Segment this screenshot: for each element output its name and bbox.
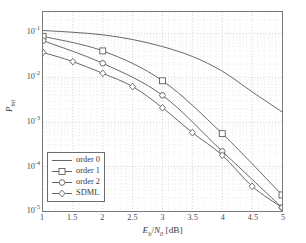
data-point-marker: [100, 70, 106, 77]
data-point-marker: [160, 78, 166, 84]
data-point-marker: [100, 61, 106, 66]
data-point-marker: [160, 93, 166, 98]
legend-item-sdml[interactable]: SDML: [51, 188, 100, 199]
x-tick-label: 5: [281, 214, 285, 222]
x-axis-label: Eb/N0 [dB]: [42, 225, 283, 237]
legend-none-icon: [51, 155, 73, 166]
x-tick-label: 3: [160, 214, 164, 222]
legend-item-label: order 2: [73, 178, 100, 186]
x-tick-label: 2: [100, 214, 104, 222]
legend-square-icon: [51, 166, 73, 177]
y-tick-label: 10-5: [2, 207, 40, 215]
data-point-marker: [219, 131, 225, 137]
data-point-marker: [160, 104, 166, 111]
data-point-marker: [279, 192, 282, 198]
legend-item-label: SDML: [73, 189, 99, 197]
x-tick-label: 1: [40, 214, 44, 222]
series-order-0: [43, 31, 282, 112]
y-tick-label: 10-1: [2, 28, 40, 36]
legend-item-label: order 1: [73, 167, 100, 175]
data-point-marker: [70, 58, 76, 65]
x-tick-label: 4.5: [248, 214, 258, 222]
legend-item-order-1[interactable]: order 1: [51, 166, 100, 177]
figure-canvas: 10-110-210-310-410-5 11.522.533.544.55 P…: [0, 0, 306, 243]
x-tick-label: 4: [221, 214, 225, 222]
x-tick-label: 1.5: [67, 214, 77, 222]
x-axis-label-unit: [dB]: [163, 225, 182, 235]
data-point-marker: [130, 83, 136, 90]
x-tick-label: 3.5: [188, 214, 198, 222]
y-axis-label-symbol: P: [4, 106, 14, 112]
x-tick-label: 2.5: [127, 214, 137, 222]
legend-item-order-2[interactable]: order 2: [51, 177, 100, 188]
legend[interactable]: order 0order 1order 2SDML: [47, 152, 105, 202]
data-point-marker: [189, 129, 195, 136]
y-axis-label: Pbit: [4, 83, 16, 129]
y-tick-label: 10-4: [2, 163, 40, 171]
legend-diamond-icon: [51, 188, 73, 199]
y-axis-label-subscript: bit: [9, 100, 16, 107]
y-tick-label: 10-2: [2, 73, 40, 81]
data-point-marker: [100, 48, 106, 54]
data-point-marker: [43, 49, 46, 56]
legend-hexagon-icon: [51, 177, 73, 188]
legend-item-order-0[interactable]: order 0: [51, 155, 100, 166]
legend-item-label: order 0: [73, 156, 100, 164]
